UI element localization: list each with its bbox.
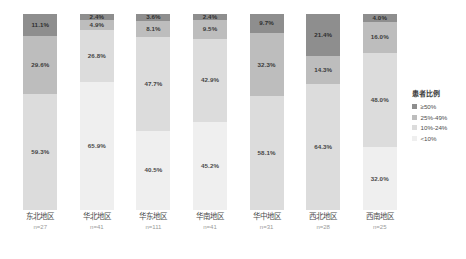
legend-swatch-icon (412, 115, 417, 120)
legend-swatch-icon (412, 125, 417, 130)
bar-segment-label: 48.0% (371, 97, 389, 103)
bar-segment[interactable]: 42.9% (193, 39, 227, 122)
bar-segment[interactable]: 26.8% (80, 30, 114, 82)
bar-segment[interactable]: 32.3% (250, 33, 284, 96)
x-axis-tick-label: 华中地区 (253, 212, 281, 221)
x-axis-tick-label: 华北地区 (83, 212, 111, 221)
legend-item-label: <10% (421, 135, 437, 142)
legend-item[interactable]: ≥50% (412, 103, 466, 110)
bar-segment-label: 9.7% (259, 20, 274, 26)
x-axis-tick: 华南地区n=41 (184, 212, 237, 231)
bar-segment-label: 40.5% (144, 167, 162, 173)
bar-group: 3.6%8.1%47.7%40.5% (127, 14, 180, 210)
bar-segment-label: 14.3% (314, 67, 332, 73)
bar-segment[interactable]: 4.0% (363, 14, 397, 22)
legend-title: 患者比例 (412, 88, 466, 98)
x-axis-sample-count: n=25 (373, 224, 387, 231)
bar-segment[interactable]: 40.5% (136, 131, 170, 210)
bar-stack[interactable]: 2.4%9.5%42.9%45.2% (193, 14, 227, 210)
legend-item[interactable]: 25%-49% (412, 114, 466, 121)
bar-segment-label: 65.9% (88, 143, 106, 149)
legend-items: ≥50%25%-49%10%-24%<10% (412, 103, 466, 142)
x-axis-tick: 东北地区n=27 (14, 212, 67, 231)
bar-segment[interactable]: 29.6% (23, 36, 57, 94)
x-axis-tick-label: 华南地区 (196, 212, 224, 221)
legend-item[interactable]: 10%-24% (412, 124, 466, 131)
bar-group: 4.0%16.0%48.0%32.0% (353, 14, 406, 210)
bar-segment-label: 29.6% (31, 62, 49, 68)
legend-swatch-icon (412, 104, 417, 109)
bar-segment[interactable]: 48.0% (363, 53, 397, 147)
bar-segment[interactable]: 14.3% (306, 56, 340, 84)
bar-group: 2.4%9.5%42.9%45.2% (184, 14, 237, 210)
x-axis-labels: 东北地区n=27华北地区n=41华东地区n=111华南地区n=41华中地区n=3… (14, 212, 406, 246)
bar-stack[interactable]: 3.6%8.1%47.7%40.5% (136, 14, 170, 210)
bar-group: 2.4%4.9%26.8%65.9% (71, 14, 124, 210)
legend-item-label: 10%-24% (421, 124, 448, 131)
bar-stack[interactable]: 2.4%4.9%26.8%65.9% (80, 14, 114, 210)
bar-segment[interactable]: 4.9% (80, 20, 114, 30)
x-axis-tick-label: 西北地区 (309, 212, 337, 221)
bar-segment[interactable]: 8.1% (136, 21, 170, 37)
bar-segment-label: 58.1% (258, 150, 276, 156)
bar-stack[interactable]: 9.7%32.3%58.1% (250, 14, 284, 210)
bar-segment-label: 42.9% (201, 77, 219, 83)
bar-stack[interactable]: 11.1%29.6%59.3% (23, 14, 57, 210)
x-axis-sample-count: n=27 (34, 224, 48, 231)
stacked-bar-chart: 11.1%29.6%59.3%2.4%4.9%26.8%65.9%3.6%8.1… (0, 0, 466, 259)
bar-segment[interactable]: 59.3% (23, 94, 57, 210)
bar-segment[interactable]: 21.4% (306, 14, 340, 56)
bar-segment-label: 11.1% (31, 22, 49, 28)
bar-segment-label: 4.0% (372, 15, 387, 21)
bar-segment[interactable]: 9.5% (193, 20, 227, 38)
x-axis-tick: 西北地区n=28 (297, 212, 350, 231)
bar-stack[interactable]: 21.4%14.3%64.3% (306, 14, 340, 210)
bar-group: 9.7%32.3%58.1% (240, 14, 293, 210)
bar-segment-label: 21.4% (314, 32, 332, 38)
bar-stack[interactable]: 4.0%16.0%48.0%32.0% (363, 14, 397, 210)
bar-segment-label: 32.0% (371, 176, 389, 182)
bar-segment[interactable]: 11.1% (23, 14, 57, 36)
bar-group: 11.1%29.6%59.3% (14, 14, 67, 210)
bar-segment-label: 32.3% (258, 62, 276, 68)
bar-segment-label: 59.3% (31, 149, 49, 155)
bar-segment-label: 3.6% (146, 14, 161, 20)
x-axis-sample-count: n=111 (145, 224, 161, 231)
bar-segment-label: 4.9% (90, 22, 105, 28)
legend-swatch-icon (412, 136, 417, 141)
bar-segment-label: 26.8% (88, 53, 106, 59)
bar-segment[interactable]: 32.0% (363, 147, 397, 210)
x-axis-tick: 华东地区n=111 (127, 212, 180, 231)
legend-item-label: 25%-49% (421, 114, 448, 121)
bar-group: 21.4%14.3%64.3% (297, 14, 350, 210)
legend-item-label: ≥50% (421, 103, 437, 110)
x-axis-sample-count: n=41 (90, 224, 104, 231)
x-axis-tick-label: 东北地区 (26, 212, 54, 221)
bar-segment[interactable]: 47.7% (136, 37, 170, 131)
x-axis-sample-count: n=28 (316, 224, 330, 231)
x-axis-sample-count: n=41 (203, 224, 217, 231)
x-axis-tick-label: 华东地区 (139, 212, 167, 221)
bar-segment[interactable]: 45.2% (193, 122, 227, 210)
bar-segment[interactable]: 9.7% (250, 14, 284, 33)
x-axis-tick: 华中地区n=31 (240, 212, 293, 231)
x-axis-tick: 西南地区n=25 (353, 212, 406, 231)
bar-segment[interactable]: 16.0% (363, 22, 397, 53)
bar-segment-label: 47.7% (144, 81, 162, 87)
bar-segment-label: 8.1% (146, 26, 161, 32)
chart-legend: 患者比例 ≥50%25%-49%10%-24%<10% (412, 88, 466, 145)
plot-area: 11.1%29.6%59.3%2.4%4.9%26.8%65.9%3.6%8.1… (14, 14, 406, 210)
x-axis-tick: 华北地区n=41 (71, 212, 124, 231)
bar-segment-label: 64.3% (314, 144, 332, 150)
bar-segment-label: 9.5% (203, 26, 218, 32)
x-axis-sample-count: n=31 (260, 224, 274, 231)
x-axis-tick-label: 西南地区 (366, 212, 394, 221)
bar-segment[interactable]: 3.6% (136, 14, 170, 21)
legend-item[interactable]: <10% (412, 135, 466, 142)
bar-segment-label: 45.2% (201, 163, 219, 169)
bar-segment[interactable]: 64.3% (306, 84, 340, 210)
bar-segment-label: 16.0% (371, 34, 389, 40)
bar-segment[interactable]: 65.9% (80, 82, 114, 210)
bar-segment[interactable]: 58.1% (250, 96, 284, 210)
